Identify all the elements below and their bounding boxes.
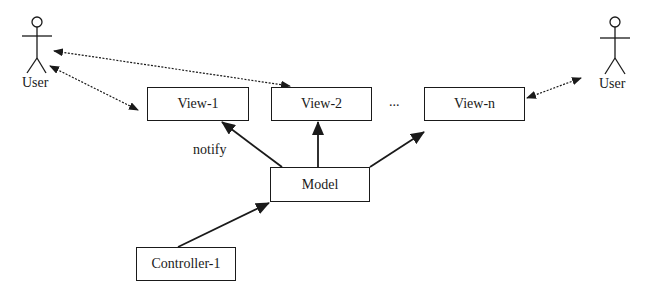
notify-label: notify [193,142,226,158]
viewn-label: View-n [454,96,495,112]
viewn-to-user-right-edge [527,78,581,98]
controller-to-model-edge [178,203,269,247]
user-right-actor-icon [600,17,630,74]
view1-node: View-1 [147,87,249,121]
model-node: Model [270,167,370,202]
viewn-node: View-n [424,87,525,121]
model-label: Model [302,177,339,193]
user-right-label: User [599,76,625,92]
controller-node: Controller-1 [136,247,236,281]
view2-node: View-2 [271,87,372,121]
ellipsis-label: ... [389,94,400,110]
model-to-view1-edge [222,122,282,167]
user-left-actor-icon [22,17,52,73]
user-left-to-view2-edge [54,51,290,86]
diagram-canvas [0,0,647,299]
user-left-to-view1-edge [50,66,138,110]
view1-label: View-1 [177,96,218,112]
controller-label: Controller-1 [152,256,221,272]
view2-label: View-2 [301,96,342,112]
model-to-viewn-edge [370,132,424,167]
user-left-label: User [22,75,48,91]
